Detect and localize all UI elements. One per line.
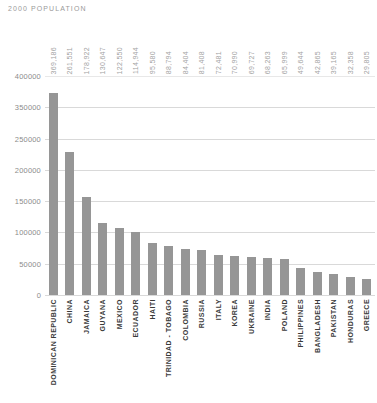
bar-value-label: 70,990 [230, 51, 239, 74]
category-label-slot: POLAND [276, 299, 293, 399]
bar [197, 250, 206, 295]
bar [362, 279, 371, 295]
x-axis-category-label: CHINA [65, 299, 74, 323]
bar-slot [45, 76, 62, 295]
category-label-slot: BANGLADESH [309, 299, 326, 399]
x-axis-category-label: HAITI [148, 299, 157, 320]
y-axis-tick-label: 200000 [15, 165, 41, 174]
bar-slot [161, 76, 178, 295]
x-axis-category-label: GREECE [362, 299, 371, 331]
category-label-slot: INDIA [260, 299, 277, 399]
x-axis-category-label: KOREA [230, 299, 239, 327]
bar-slot [78, 76, 95, 295]
bar [65, 152, 74, 295]
bar-slot [243, 76, 260, 295]
bar-value-label: 130,647 [98, 47, 107, 74]
bar-value-label: 32,358 [346, 51, 355, 74]
category-label-slot: ITALY [210, 299, 227, 399]
bar-value-label: 39,165 [329, 51, 338, 74]
bar-value-label: 114,944 [131, 47, 140, 74]
bar-value-label: 65,999 [280, 51, 289, 74]
value-label-slot: 49,644 [293, 20, 310, 74]
bar [214, 255, 223, 295]
category-label-slot: JAMAICA [78, 299, 95, 399]
x-axis-category-label: TRINIDAD - TOBAGO [164, 299, 173, 377]
category-label-row: DOMINICAN REPUBLICCHINAJAMAICAGUYANAMEXI… [45, 299, 375, 399]
bar-value-label: 178,922 [82, 47, 91, 74]
bar-value-label: 261,551 [65, 47, 74, 74]
value-label-row: 369,186261,551178,922130,647122,550114,9… [45, 20, 375, 74]
bar-value-label: 369,186 [49, 47, 58, 74]
x-axis-category-label: BANGLADESH [313, 299, 322, 353]
x-axis-category-label: JAMAICA [82, 299, 91, 334]
category-label-slot: HONDURAS [342, 299, 359, 399]
bar-slot [194, 76, 211, 295]
value-label-slot: 178,922 [78, 20, 95, 74]
bar-value-label: 42,865 [313, 51, 322, 74]
x-axis-category-label: RUSSIA [197, 299, 206, 328]
x-axis-category-label: MEXICO [115, 299, 124, 329]
category-label-slot: MEXICO [111, 299, 128, 399]
y-axis-tick-label: 400000 [15, 72, 41, 81]
category-label-slot: UKRAINE [243, 299, 260, 399]
category-label-slot: KOREA [227, 299, 244, 399]
bar [131, 232, 140, 295]
x-axis-category-label: DOMINICAN REPUBLIC [49, 299, 58, 385]
category-label-slot: GREECE [359, 299, 376, 399]
value-label-slot: 42,865 [309, 20, 326, 74]
category-label-slot: RUSSIA [194, 299, 211, 399]
x-axis-category-label: PHILIPPINES [296, 299, 305, 348]
bar [296, 268, 305, 295]
x-axis-category-label: INDIA [263, 299, 272, 320]
gridline [45, 295, 375, 296]
value-label-slot: 29,805 [359, 20, 376, 74]
value-label-slot: 88,794 [161, 20, 178, 74]
bar-value-label: 72,481 [214, 51, 223, 74]
category-label-slot: GUYANA [95, 299, 112, 399]
value-label-slot: 369,186 [45, 20, 62, 74]
value-label-slot: 84,404 [177, 20, 194, 74]
bar-value-label: 84,404 [181, 51, 190, 74]
y-axis-tick-label: 0 [37, 291, 41, 300]
bar [280, 259, 289, 295]
bar-slot [326, 76, 343, 295]
population-bar-chart: 2000 POPULATION 400000350000250000200000… [0, 0, 377, 403]
bar [329, 274, 338, 295]
x-axis-category-label: POLAND [280, 299, 289, 331]
value-label-slot: 65,999 [276, 20, 293, 74]
y-axis-tick-label: 150000 [15, 197, 41, 206]
bar [230, 256, 239, 295]
bar-slot [95, 76, 112, 295]
bar-slot [293, 76, 310, 295]
bar-value-label: 49,644 [296, 51, 305, 74]
x-axis-category-label: HONDURAS [346, 299, 355, 343]
bar-value-label: 69,727 [247, 51, 256, 74]
category-label-slot: CHINA [62, 299, 79, 399]
category-label-slot: ECUADOR [128, 299, 145, 399]
bar [346, 277, 355, 295]
x-axis-category-label: GUYANA [98, 299, 107, 331]
category-label-slot: PAKISTAN [326, 299, 343, 399]
value-label-slot: 130,647 [95, 20, 112, 74]
bar-value-label: 29,805 [362, 51, 371, 74]
bar [181, 249, 190, 295]
bar-value-label: 81,408 [197, 51, 206, 74]
value-label-slot: 81,408 [194, 20, 211, 74]
value-label-slot: 32,358 [342, 20, 359, 74]
bar-slot [359, 76, 376, 295]
value-label-slot: 261,551 [62, 20, 79, 74]
category-label-slot: DOMINICAN REPUBLIC [45, 299, 62, 399]
value-label-slot: 72,481 [210, 20, 227, 74]
x-axis-category-label: UKRAINE [247, 299, 256, 334]
value-label-slot: 70,990 [227, 20, 244, 74]
bar-series [45, 76, 375, 295]
y-axis: 4000003500002500002000001500001000005000… [0, 76, 41, 295]
bar-slot [62, 76, 79, 295]
bar-value-label: 68,263 [263, 51, 272, 74]
value-label-slot: 122,550 [111, 20, 128, 74]
bar-slot [276, 76, 293, 295]
y-axis-tick-label: 50000 [19, 259, 41, 268]
bar-slot [309, 76, 326, 295]
value-label-slot: 95,580 [144, 20, 161, 74]
y-axis-tick-label: 350000 [15, 103, 41, 112]
